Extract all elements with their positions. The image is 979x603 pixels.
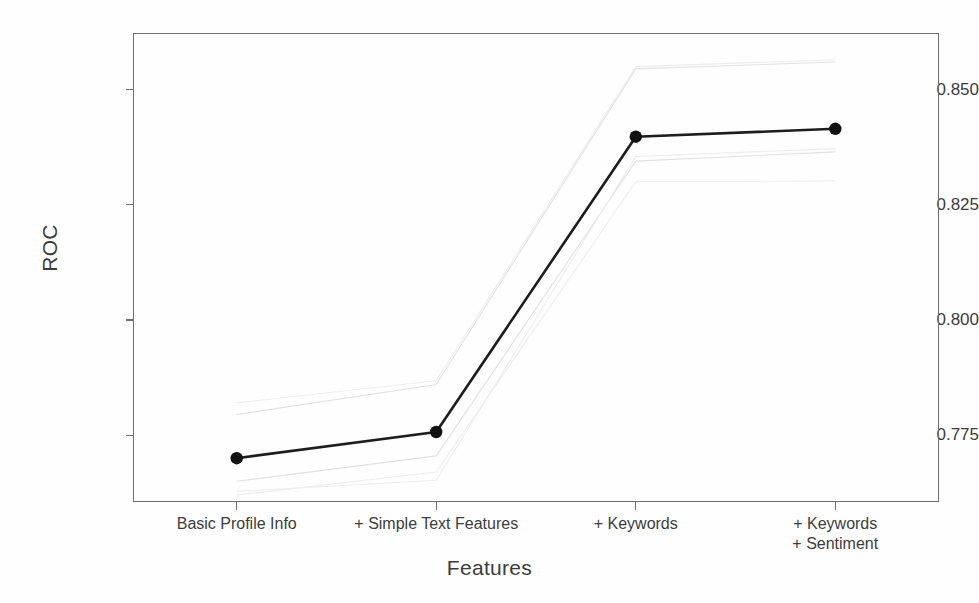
x-tick-mark [835,502,836,510]
x-tick-label: + Keywords [594,514,678,534]
x-tick-mark [236,502,237,510]
x-axis-title: Features [0,556,979,580]
x-tick-label: + Simple Text Features [354,514,518,534]
x-tick-label: + Keywords + Sentiment [792,514,878,554]
y-axis-title: ROC [38,188,62,308]
chart-figure: ROC 0.8500.8250.8000.775 Basic Profile I… [0,0,979,603]
x-tick-label: Basic Profile Info [177,514,297,534]
x-tick-mark [635,502,636,510]
x-tick-mark [436,502,437,510]
plot-area [133,33,939,502]
